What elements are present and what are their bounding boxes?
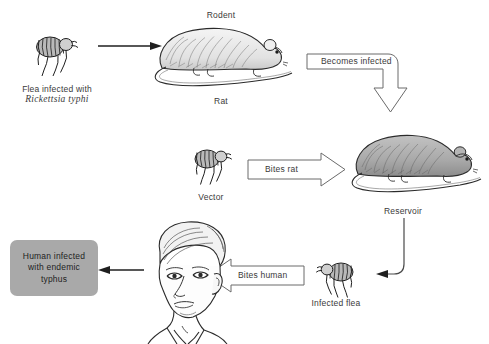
outcome-label-line3: typhus — [23, 274, 85, 286]
arrow-bites-rat-label: Bites rat — [265, 164, 298, 174]
outcome-box: Human infected with endemic typhus — [10, 240, 98, 296]
rat-gray-icon — [344, 128, 484, 198]
outcome-label-line2: with endemic — [23, 262, 85, 274]
flea-icon — [310, 255, 362, 301]
arrow-becomes-infected-label: Becomes infected — [321, 56, 392, 66]
flea-icon — [26, 28, 86, 80]
flea-icon — [186, 142, 238, 188]
rat-top-label-rat: Rat — [214, 96, 228, 107]
rat-icon — [146, 20, 298, 92]
diagram-canvas: Flea infected with Rickettsia typhi — [0, 0, 489, 344]
outcome-label-line1: Human infected — [23, 251, 85, 263]
flea-source-label-species: Rickettsia typhi — [25, 94, 89, 105]
flea-infected-label: Infected flea — [312, 298, 361, 309]
arrow-human-to-outcome — [96, 262, 146, 278]
arrow-bites-human-label: Bites human — [238, 270, 287, 280]
human-head-icon — [130, 218, 242, 344]
arrow-reservoir-to-flea — [374, 216, 434, 282]
rat-top-label-rodent: Rodent — [207, 10, 236, 21]
flea-vector-label: Vector — [198, 192, 223, 203]
